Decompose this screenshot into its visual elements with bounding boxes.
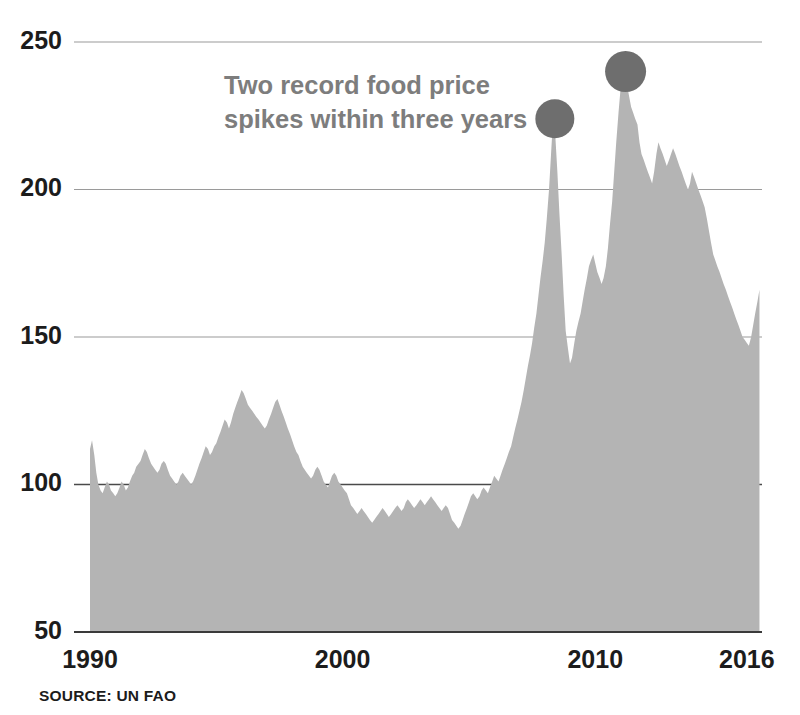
source-caption: SOURCE: UN FAO <box>39 687 176 704</box>
y-tick-label-100: 100 <box>20 468 62 496</box>
chart-container: 50100150200250 1990200020102016 Two reco… <box>0 0 800 715</box>
y-tick-label-200: 200 <box>20 173 62 201</box>
food-price-index-area-chart: 50100150200250 1990200020102016 Two reco… <box>0 0 800 715</box>
x-tick-label-2000: 2000 <box>315 645 371 673</box>
y-tick-label-50: 50 <box>34 616 62 644</box>
annotation-line-1: Two record food price <box>224 71 490 99</box>
y-tick-label-150: 150 <box>20 321 62 349</box>
y-tick-label-250: 250 <box>20 26 62 54</box>
x-tick-label-1990: 1990 <box>62 645 118 673</box>
x-tick-label-2016: 2016 <box>719 645 775 673</box>
peak-marker-1 <box>535 99 574 138</box>
peak-marker-2 <box>605 51 646 92</box>
annotation-line-2: spikes within three years <box>224 105 527 133</box>
x-tick-label-2010: 2010 <box>567 645 623 673</box>
